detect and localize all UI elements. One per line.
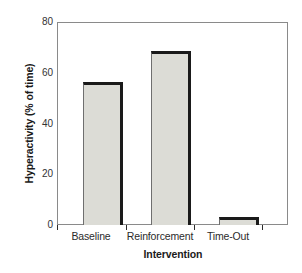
x-tick-label-reinforcement: Reinforcement — [126, 230, 194, 242]
x-tick-label-baseline: Baseline — [57, 230, 125, 242]
bar-baseline — [83, 82, 123, 225]
y-tick-label-80: 80 — [27, 17, 53, 27]
x-tick-mark-3 — [262, 225, 263, 230]
y-tick-label-0: 0 — [27, 220, 53, 230]
y-tick-label-20: 20 — [27, 169, 53, 179]
bar-chart-figure: Hyperactivity (% of time) 0 20 40 60 80 … — [0, 0, 302, 273]
x-axis-title: Intervention — [57, 248, 289, 260]
bar-time-out — [219, 217, 259, 225]
bar-reinforcement — [151, 51, 191, 225]
y-tick-label-40: 40 — [27, 119, 53, 129]
y-tick-label-60: 60 — [27, 68, 53, 78]
x-tick-label-time-out: Time-Out — [194, 230, 262, 242]
